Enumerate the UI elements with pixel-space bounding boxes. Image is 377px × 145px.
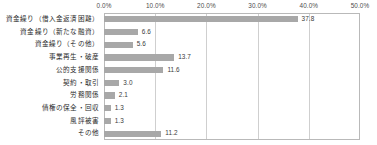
bar-value-label: 11.6 <box>167 64 179 77</box>
bar <box>104 67 163 73</box>
bar-value-label: 1.3 <box>115 102 124 115</box>
category-label: 債権の保全・回収 <box>0 102 99 115</box>
bar <box>104 118 111 124</box>
category-label: 労務関係 <box>0 89 99 102</box>
category-label: 事業再生・破産 <box>0 51 99 64</box>
bar-row: 風評被害1.3 <box>0 115 377 128</box>
x-axis-tick-label: 40.0% <box>299 2 318 9</box>
bar-row: 労務関係2.1 <box>0 89 377 102</box>
category-label: 資金繰り（新たな融資） <box>0 26 99 39</box>
bar <box>104 29 138 35</box>
bar-value-label: 6.6 <box>142 26 151 39</box>
bar <box>104 92 115 98</box>
x-axis-tick-label: 30.0% <box>248 2 267 9</box>
bar-row: 公的支援関係11.6 <box>0 64 377 77</box>
bar-row: 債権の保全・回収1.3 <box>0 102 377 115</box>
bar-value-label: 1.3 <box>115 115 124 128</box>
bar <box>104 42 133 48</box>
bar-row: 資金繰り（その他）5.6 <box>0 38 377 51</box>
bar <box>104 80 119 86</box>
bar-value-label: 11.2 <box>165 127 177 140</box>
category-label: その他 <box>0 127 99 140</box>
bar-value-label: 3.0 <box>123 77 132 90</box>
bar-row: 資金繰り（新たな融資）6.6 <box>0 26 377 39</box>
category-label: 契約・取引 <box>0 77 99 90</box>
bar-row: その他11.2 <box>0 127 377 140</box>
x-axis-tick-labels: 0.0%10.0%20.0%30.0%40.0%50.0% <box>0 0 377 13</box>
category-label: 公的支援関係 <box>0 64 99 77</box>
bar <box>104 16 298 22</box>
bar-row: 資金繰り（借入金返済困難）37.8 <box>0 13 377 26</box>
category-label: 資金繰り（借入金返済困難） <box>0 13 99 26</box>
x-axis-tick-label: 0.0% <box>97 2 112 9</box>
x-axis-tick-label: 20.0% <box>197 2 216 9</box>
bar-value-label: 37.8 <box>302 13 315 26</box>
category-label: 風評被害 <box>0 115 99 128</box>
bar-row: 事業再生・破産13.7 <box>0 51 377 64</box>
bar-row: 契約・取引3.0 <box>0 77 377 90</box>
bar <box>104 54 174 60</box>
bar-rows: 資金繰り（借入金返済困難）37.8資金繰り（新たな融資）6.6資金繰り（その他）… <box>0 13 377 140</box>
x-axis-tick-label: 50.0% <box>351 2 370 9</box>
bar <box>104 105 111 111</box>
bar-chart: 0.0%10.0%20.0%30.0%40.0%50.0% 資金繰り（借入金返済… <box>0 0 377 145</box>
bar-value-label: 2.1 <box>119 89 128 102</box>
x-axis-tick-label: 10.0% <box>146 2 165 9</box>
bar <box>104 131 161 137</box>
bar-value-label: 13.7 <box>178 51 191 64</box>
category-label: 資金繰り（その他） <box>0 38 99 51</box>
bar-value-label: 5.6 <box>137 38 146 51</box>
